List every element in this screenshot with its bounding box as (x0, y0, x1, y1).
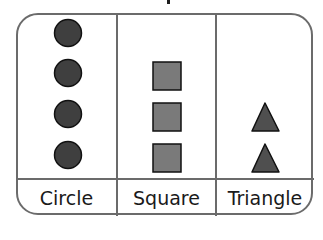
circle-icon (55, 20, 82, 47)
triangle-icon (252, 144, 279, 172)
column-label-circle: Circle (17, 184, 116, 212)
column-label-square: Square (118, 184, 215, 212)
circle-icon (55, 60, 82, 87)
triangle-icon (252, 103, 279, 131)
column-label-triangle: Triangle (217, 184, 313, 212)
circle-icon (55, 101, 82, 128)
square-icon (153, 62, 181, 90)
square-column (153, 62, 181, 172)
square-icon (153, 144, 181, 172)
square-icon (153, 103, 181, 131)
circle-icon (55, 142, 82, 169)
triangle-column (252, 103, 279, 172)
circle-column (55, 20, 82, 169)
